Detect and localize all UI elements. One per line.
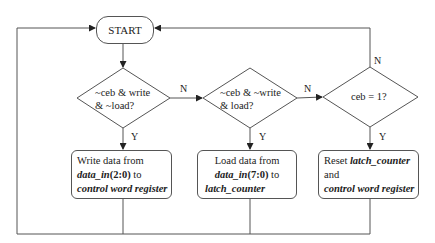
action-3-line-3: control word register xyxy=(324,182,413,196)
decision-2-text: ~ceb & ~write & load? xyxy=(220,86,281,112)
action-1-line-1: Write data from xyxy=(77,154,166,168)
action-box-write-control-word: Write data from data_in(2:0) to control … xyxy=(71,150,172,199)
connector-lines xyxy=(0,0,435,243)
decision-3-text: ceb = 1? xyxy=(351,90,387,103)
action-3-line-2: and xyxy=(324,168,413,182)
decision-2-line-2: & load? xyxy=(220,99,281,112)
edge-label-d1-yes: Y xyxy=(131,131,138,142)
start-terminal: START xyxy=(96,16,154,44)
action-2-to: to xyxy=(268,169,279,180)
action-box-load-latch-counter: Load data from data_in(7:0) to latch_cou… xyxy=(197,150,297,199)
edge-label-d2-no: N xyxy=(304,83,311,94)
edge-label-d2-yes: Y xyxy=(259,131,266,142)
action-2-line-2: data_in(7:0) to xyxy=(215,168,279,182)
edge-d2-d3 xyxy=(297,97,322,98)
edge-label-d3-yes: Y xyxy=(379,131,386,142)
decision-1-line-2: & ~load? xyxy=(95,99,150,112)
decision-3-line-1: ceb = 1? xyxy=(351,90,387,103)
action-1-signal: data_in xyxy=(77,169,110,180)
action-1-range: (2:0) xyxy=(110,169,131,180)
action-2-range: (7:0) xyxy=(247,169,268,180)
action-2-line-3: latch_counter xyxy=(203,182,265,196)
action-1-to: to xyxy=(131,169,142,180)
action-2-signal: data_in xyxy=(215,169,248,180)
action-1-line-2: data_in(2:0) to xyxy=(77,168,166,182)
action-2-line-1: Load data from xyxy=(215,154,280,168)
action-3-line-1: Reset latch_counter xyxy=(324,154,413,168)
start-label: START xyxy=(108,24,141,36)
action-3-reset: Reset xyxy=(324,155,350,166)
edge-label-d3-no: N xyxy=(374,55,381,66)
edge-d3-start xyxy=(155,28,370,67)
decision-1-text: ~ceb & write & ~load? xyxy=(95,86,150,112)
decision-1-line-1: ~ceb & write xyxy=(95,86,150,99)
edge-label-d1-no: N xyxy=(180,83,187,94)
edge-return-start xyxy=(17,28,370,234)
action-1-line-3: control word register xyxy=(77,182,166,196)
action-box-reset: Reset latch_counter and control word reg… xyxy=(318,150,419,199)
decision-2-line-1: ~ceb & ~write xyxy=(220,86,281,99)
action-3-latch-counter: latch_counter xyxy=(350,155,410,166)
